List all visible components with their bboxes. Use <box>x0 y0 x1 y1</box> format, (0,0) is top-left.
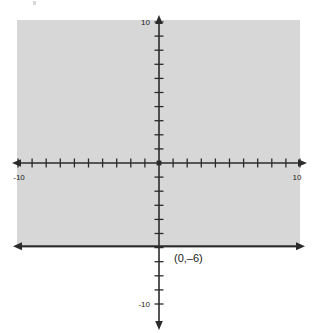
coordinate-plane-svg: -10 10 <box>0 0 313 333</box>
y-axis-bottom-arrowhead <box>155 321 163 330</box>
x-axis-min-label: -10 <box>13 173 25 182</box>
y-axis-min-label: -10 <box>138 300 150 309</box>
y-intercept-annotation-label: (0,–6) <box>174 252 203 264</box>
origin-point-marker <box>157 161 162 166</box>
x-axis-max-label: 10 <box>293 173 302 182</box>
coordinate-graph-figure: -10 10 <box>0 0 313 333</box>
scan-artifact-mark <box>33 1 36 5</box>
x-axis-left-arrowhead <box>12 159 21 167</box>
graph-line-right-arrowhead <box>296 242 305 250</box>
y-axis-max-label: 10 <box>141 18 150 27</box>
